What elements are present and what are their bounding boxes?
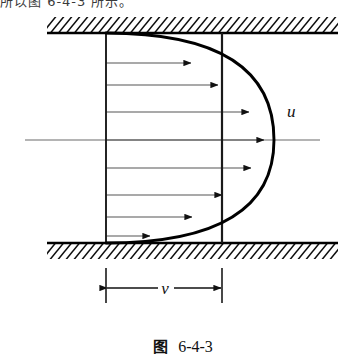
top-wall [40,14,346,36]
parabolic-velocity-profile-curve [106,33,274,243]
velocity-profile-label: u [287,102,296,121]
mean-velocity-label: v [161,279,169,298]
figure-caption-number: 6-4-3 [178,338,213,355]
figure-caption: 图6-4-3 [0,318,351,358]
figure-caption-label: 图 [153,338,168,356]
mean-velocity-dimension: v [106,268,222,303]
bottom-wall [40,240,346,262]
